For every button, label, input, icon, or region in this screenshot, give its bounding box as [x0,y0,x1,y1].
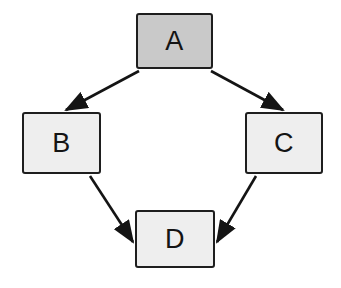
edge-b-to-d [90,176,133,242]
node-d[interactable]: D [135,210,215,268]
node-c-label: C [274,130,294,157]
edge-a-to-b [66,71,139,110]
node-a-label: A [165,28,184,55]
edge-a-to-c [211,71,283,110]
node-b[interactable]: B [22,112,101,174]
diagram-canvas: A B C D [0,0,341,288]
node-a[interactable]: A [136,13,213,69]
node-c[interactable]: C [245,112,323,174]
edge-c-to-d [217,176,256,242]
node-d-label: D [165,226,185,253]
node-b-label: B [52,130,71,157]
